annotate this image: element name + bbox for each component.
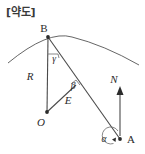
segment-label-R: R xyxy=(26,70,34,82)
point-label-B: B xyxy=(40,22,47,34)
angle-gamma-tick xyxy=(58,54,59,58)
segment-BA xyxy=(48,37,120,139)
angle-label-gamma: γ xyxy=(52,54,56,64)
point-label-O: O xyxy=(37,116,45,128)
point-label-N: N xyxy=(109,73,118,85)
angle-label-beta: β xyxy=(70,81,76,91)
segment-OB-radius xyxy=(47,37,48,112)
segment-label-E: E xyxy=(64,94,72,106)
earth-arc xyxy=(8,36,139,65)
north-arrow-head xyxy=(117,86,124,95)
diagram-canvas: B O A N R E γ α β xyxy=(0,0,145,154)
point-B-dot xyxy=(46,35,50,39)
point-label-A: A xyxy=(127,133,135,145)
diagram-figure: [약도] B O A N R E γ xyxy=(0,0,145,154)
point-A-dot xyxy=(118,137,122,141)
angle-alpha-arrowhead xyxy=(112,138,116,143)
point-O-dot xyxy=(45,110,49,114)
